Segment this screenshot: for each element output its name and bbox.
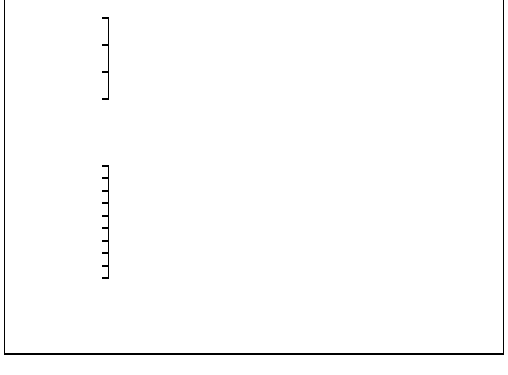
top-panel <box>102 18 109 99</box>
chart-plot-area <box>0 0 508 355</box>
bottom-panel <box>102 166 109 278</box>
chart-svg <box>0 0 508 355</box>
figure-container <box>0 0 508 375</box>
